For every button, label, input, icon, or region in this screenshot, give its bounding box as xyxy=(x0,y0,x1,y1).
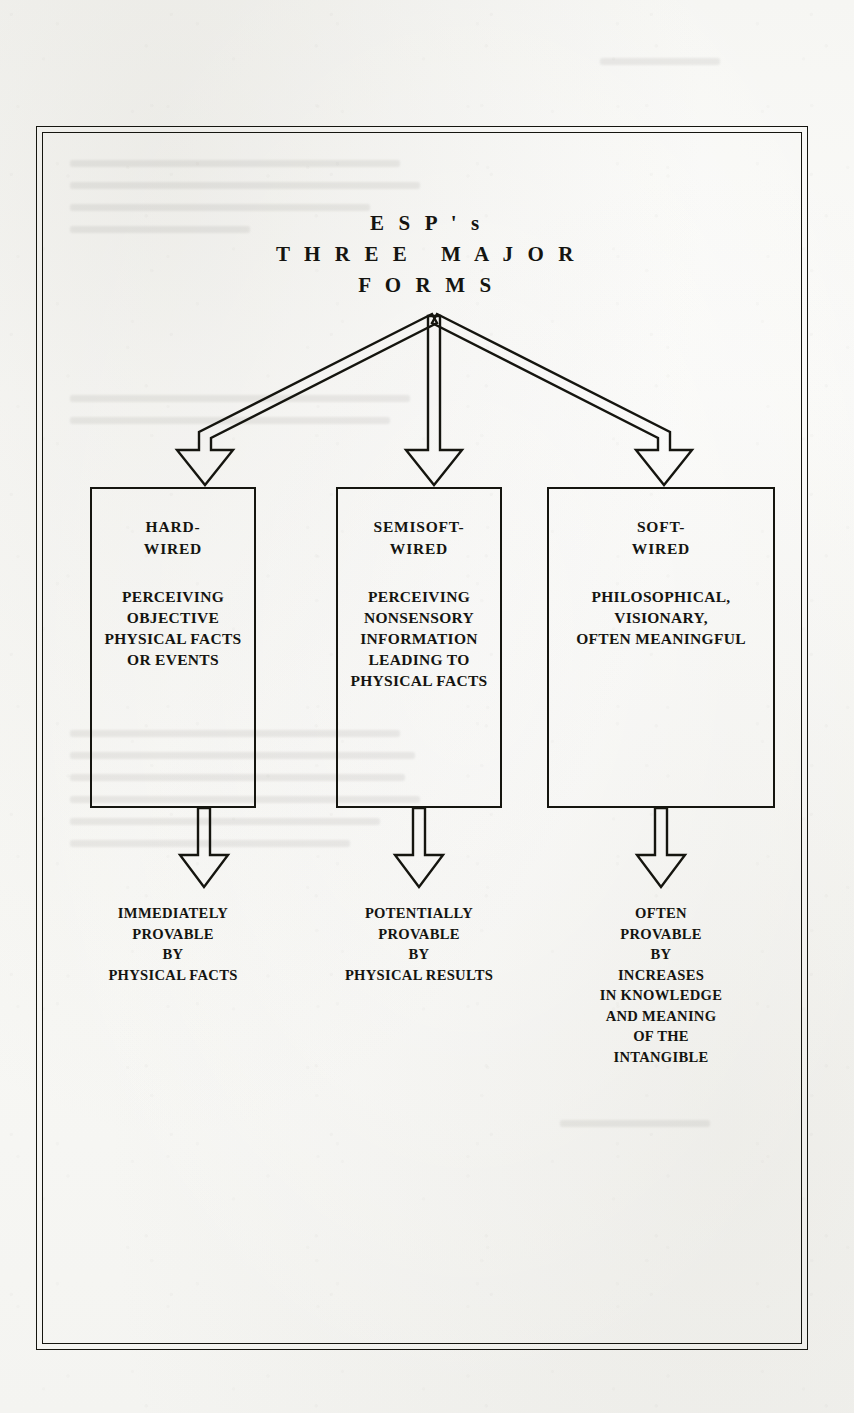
category-body-hard-wired: PERCEIVING OBJECTIVE PHYSICAL FACTS OR E… xyxy=(92,586,254,670)
diagram-title-line-3: F O R M S xyxy=(0,270,854,301)
category-title-hard-wired: HARD- WIRED xyxy=(92,516,254,560)
category-body-semisoft-wired: PERCEIVING NONSENSORY INFORMATION LEADIN… xyxy=(338,586,500,691)
category-box-hard-wired: HARD- WIRED PERCEIVING OBJECTIVE PHYSICA… xyxy=(90,487,256,808)
diagram-title: E S P ' s T H R E E M A J O R F O R M S xyxy=(0,208,854,301)
outcome-soft-wired: OFTEN PROVABLE BY INCREASES IN KNOWLEDGE… xyxy=(547,903,775,1067)
scanned-page: E S P ' s T H R E E M A J O R F O R M S … xyxy=(0,0,854,1413)
outcome-semisoft-wired: POTENTIALLY PROVABLE BY PHYSICAL RESULTS xyxy=(318,903,520,985)
outcome-hard-wired: IMMEDIATELY PROVABLE BY PHYSICAL FACTS xyxy=(90,903,256,985)
diagram-title-line-2: T H R E E M A J O R xyxy=(0,239,854,270)
diagram-title-line-1: E S P ' s xyxy=(0,208,854,239)
category-body-soft-wired: PHILOSOPHICAL, VISIONARY, OFTEN MEANINGF… xyxy=(549,586,773,649)
category-box-soft-wired: SOFT- WIRED PHILOSOPHICAL, VISIONARY, OF… xyxy=(547,487,775,808)
category-title-semisoft-wired: SEMISOFT- WIRED xyxy=(338,516,500,560)
category-title-soft-wired: SOFT- WIRED xyxy=(549,516,773,560)
category-box-semisoft-wired: SEMISOFT- WIRED PERCEIVING NONSENSORY IN… xyxy=(336,487,502,808)
